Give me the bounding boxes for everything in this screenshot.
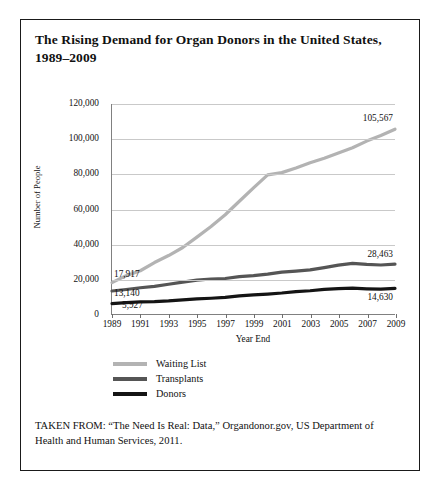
legend: Waiting ListTransplantsDonors xyxy=(113,356,353,401)
data-label-waiting-list-start: 17,917 xyxy=(114,269,140,279)
gridline xyxy=(112,174,395,175)
data-label-donors-end: 14,630 xyxy=(367,292,393,302)
x-axis-tick xyxy=(368,314,369,318)
x-axis-tick xyxy=(140,314,141,318)
x-axis-tick xyxy=(197,314,198,318)
legend-label: Waiting List xyxy=(156,358,206,369)
figure-page: The Rising Demand for Organ Donors in th… xyxy=(0,0,440,488)
y-axis-tick-label: 60,000 xyxy=(31,204,99,214)
x-axis-tick xyxy=(311,314,312,318)
legend-label: Transplants xyxy=(156,373,203,384)
source-note: TAKEN FROM: “The Need Is Real: Data,” Or… xyxy=(35,418,401,448)
legend-swatch xyxy=(113,392,147,396)
gridline xyxy=(112,210,395,211)
gridline xyxy=(112,104,395,105)
gridline xyxy=(112,139,395,140)
legend-swatch xyxy=(113,362,147,366)
legend-swatch xyxy=(113,377,147,381)
figure-frame: The Rising Demand for Organ Donors in th… xyxy=(20,19,420,471)
x-axis-tick xyxy=(112,314,113,318)
y-axis-tick-label: 120,000 xyxy=(31,98,99,108)
data-label-transplants-end: 28,463 xyxy=(367,249,393,259)
chart: Number of People 020,00040,00060,00080,0… xyxy=(21,82,419,352)
x-axis-tick xyxy=(254,314,255,318)
series-line-donors xyxy=(112,288,395,303)
legend-item-transplants: Transplants xyxy=(113,371,353,386)
y-axis-tick-label: 40,000 xyxy=(31,239,99,249)
legend-item-waiting-list: Waiting List xyxy=(113,356,353,371)
data-label-transplants-start: 13,140 xyxy=(114,288,140,298)
legend-label: Donors xyxy=(156,388,186,399)
y-axis-tick-label: 80,000 xyxy=(31,168,99,178)
data-label-waiting-list-end: 105,567 xyxy=(363,113,393,123)
y-axis-tick-label: 0 xyxy=(31,309,99,319)
y-axis-tick-label: 20,000 xyxy=(31,274,99,284)
x-axis-tick xyxy=(226,314,227,318)
y-axis-tick-label: 100,000 xyxy=(31,133,99,143)
data-label-donors-start: 5,927 xyxy=(122,300,143,310)
gridline xyxy=(112,245,395,246)
x-axis-tick xyxy=(339,314,340,318)
x-axis-tick-label: 2009 xyxy=(376,319,416,329)
plot-area: 020,00040,00060,00080,000100,000120,0001… xyxy=(111,104,395,315)
x-axis-tick xyxy=(396,314,397,318)
x-axis-title: Year End xyxy=(111,334,395,344)
page-title: The Rising Demand for Organ Donors in th… xyxy=(35,31,397,67)
gridline xyxy=(112,280,395,281)
series-line-waiting-list xyxy=(112,129,395,282)
x-axis-tick xyxy=(169,314,170,318)
x-axis-tick xyxy=(282,314,283,318)
legend-item-donors: Donors xyxy=(113,386,353,401)
